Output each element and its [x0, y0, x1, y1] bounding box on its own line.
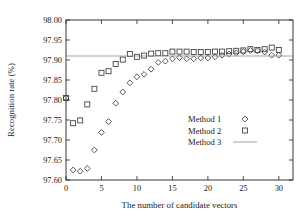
x-tick-label: 20: [204, 184, 212, 193]
data-point-square: [191, 50, 196, 55]
legend-label-2: Method 2: [188, 126, 221, 136]
y-tick-label: 97.75: [43, 116, 62, 125]
legend-label-3: Method 3: [188, 137, 221, 147]
y-tick-label: 97.85: [43, 76, 62, 85]
series-method-1: [63, 48, 282, 175]
data-point-diamond: [155, 60, 161, 66]
data-point-diamond: [84, 166, 90, 172]
data-point-diamond: [77, 168, 83, 174]
data-point-square: [71, 121, 76, 126]
data-point-square: [198, 50, 203, 55]
data-point-square: [134, 54, 139, 59]
data-point-square: [269, 45, 274, 50]
x-axis-title: The number of candidate vectors: [122, 200, 238, 210]
data-point-square: [234, 48, 239, 53]
x-tick-label: 25: [239, 184, 247, 193]
data-point-diamond: [134, 74, 140, 80]
data-point-diamond: [177, 55, 183, 61]
y-axis-title: Recognition rate (%): [6, 63, 16, 137]
data-point-diamond: [219, 52, 225, 58]
data-point-square: [205, 50, 210, 55]
data-point-diamond: [191, 56, 197, 62]
data-point-square: [163, 51, 168, 56]
y-tick-label: 97.80: [43, 96, 62, 105]
data-point-diamond: [120, 89, 126, 95]
data-point-square: [220, 49, 225, 54]
data-point-diamond: [233, 50, 239, 56]
series-method-2: [64, 45, 282, 126]
recognition-rate-scatter-chart: 97.6097.6597.7097.7597.8097.8597.9097.95…: [0, 0, 306, 224]
x-tick-label: 15: [168, 184, 176, 193]
data-point-square: [78, 118, 83, 123]
data-point-square: [113, 62, 118, 67]
data-point-square: [85, 102, 90, 107]
data-point-diamond: [248, 48, 254, 54]
data-point-diamond: [70, 167, 76, 173]
data-point-diamond: [240, 49, 246, 55]
data-point-diamond: [113, 100, 119, 106]
data-point-square: [106, 69, 111, 74]
data-point-diamond: [212, 54, 218, 60]
data-point-square: [92, 86, 97, 91]
data-point-square: [184, 49, 189, 54]
data-point-square: [243, 128, 248, 133]
legend-label-1: Method 1: [188, 114, 221, 124]
x-tick-label: 10: [133, 184, 141, 193]
data-point-square: [177, 49, 182, 54]
data-point-diamond: [184, 56, 190, 62]
data-point-square: [120, 57, 125, 62]
data-point-diamond: [269, 52, 275, 58]
y-tick-label: 98.00: [43, 16, 62, 25]
data-point-square: [149, 51, 154, 56]
plot-frame: [66, 20, 293, 180]
data-point-diamond: [99, 130, 105, 136]
data-point-diamond: [106, 119, 112, 125]
data-point-diamond: [170, 56, 176, 62]
data-point-diamond: [276, 52, 282, 58]
data-point-diamond: [162, 58, 168, 64]
y-tick-label: 97.90: [43, 56, 62, 65]
data-point-diamond: [148, 66, 154, 72]
y-tick-label: 97.70: [43, 136, 62, 145]
data-point-square: [170, 49, 175, 54]
chart-figure: 97.6097.6597.7097.7597.8097.8597.9097.95…: [0, 0, 306, 224]
x-tick-label: 30: [275, 184, 283, 193]
data-point-square: [156, 51, 161, 56]
y-tick-label: 97.65: [43, 156, 62, 165]
x-tick-label: 0: [64, 184, 68, 193]
x-tick-label: 5: [99, 184, 103, 193]
y-tick-label: 97.95: [43, 36, 62, 45]
data-point-square: [99, 70, 104, 75]
data-point-diamond: [127, 80, 133, 86]
data-point-diamond: [91, 147, 97, 153]
data-point-diamond: [242, 116, 248, 122]
y-tick-label: 97.60: [43, 176, 62, 185]
data-point-diamond: [141, 72, 147, 78]
